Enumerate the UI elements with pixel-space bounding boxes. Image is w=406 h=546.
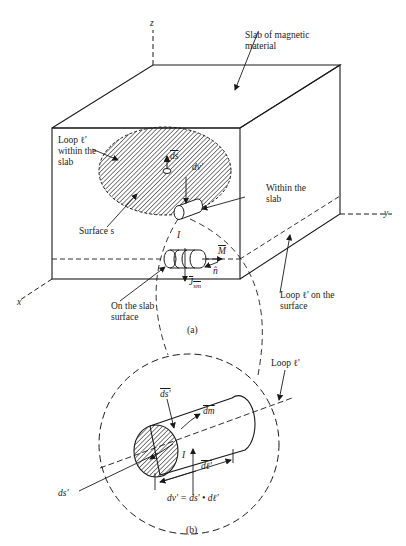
M-label: M xyxy=(218,246,226,257)
magnify-guides xyxy=(156,219,262,375)
loop-b-label: Loop ℓ' xyxy=(271,358,300,369)
J-subscript: sm xyxy=(193,282,201,290)
dm-label: dm xyxy=(203,406,215,417)
x-axis xyxy=(20,279,52,300)
current-label-a: I xyxy=(177,230,180,241)
ds-scalar-label: ds' xyxy=(58,488,68,499)
dv-label: dv' xyxy=(192,162,203,173)
loop-within-label: Loop ℓ' within the slab xyxy=(58,135,96,168)
x-axis-label: x xyxy=(17,297,21,308)
n-label: n̂ xyxy=(213,266,218,277)
current-label-b: I xyxy=(182,450,185,461)
cylinder-magnified xyxy=(134,396,255,477)
caption-b: (b) xyxy=(186,525,197,536)
equation-label: dv' = ds' • dℓ' xyxy=(167,493,218,504)
y-axis-label: y xyxy=(384,208,388,219)
J-label: Jsm xyxy=(189,277,201,292)
slab-label: Slab of magnetic material xyxy=(245,30,309,52)
surface-s-label: Surface s xyxy=(79,226,114,237)
ds-label: ds xyxy=(170,151,178,162)
dl-label: dℓ' xyxy=(201,461,212,472)
on-surface-label: On the slab surface xyxy=(111,301,154,323)
ds-vec-label: ds' xyxy=(160,389,170,400)
loop-on-surface-label: Loop ℓ' on the surface xyxy=(280,290,335,312)
z-axis-label: z xyxy=(150,18,154,29)
caption-a: (a) xyxy=(187,325,198,336)
within-slab-label: Within the slab xyxy=(266,183,306,205)
